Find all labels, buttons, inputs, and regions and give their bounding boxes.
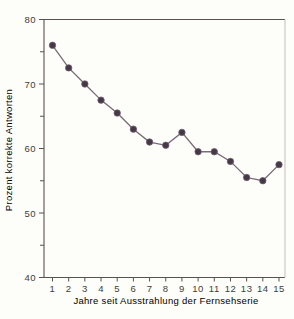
x-tick-label: 5 — [114, 283, 120, 294]
x-tick-label: 7 — [147, 283, 153, 294]
data-point — [82, 81, 88, 87]
x-tick-label: 10 — [192, 283, 204, 294]
x-tick-label: 9 — [179, 283, 185, 294]
line-chart: 4050607080123456789101112131415 Prozent … — [0, 0, 294, 319]
data-point — [243, 174, 249, 180]
data-point — [163, 142, 169, 148]
data-point — [98, 97, 104, 103]
x-tick-label: 1 — [50, 283, 56, 294]
data-point — [211, 149, 217, 155]
x-tick-label: 4 — [98, 283, 104, 294]
data-point — [227, 158, 233, 164]
data-point — [195, 149, 201, 155]
x-tick-label: 14 — [257, 283, 269, 294]
data-point — [49, 42, 55, 48]
x-axis-title: Jahre seit Ausstrahlung der Fernsehserie — [73, 295, 258, 306]
x-tick-label: 2 — [66, 283, 72, 294]
x-tick-label: 13 — [241, 283, 253, 294]
x-tick-label: 15 — [273, 283, 285, 294]
y-axis-title: Prozent korrekte Antworten — [3, 89, 14, 211]
data-point — [130, 126, 136, 132]
x-tick-label: 6 — [130, 283, 136, 294]
y-tick-label: 70 — [24, 79, 36, 90]
data-point — [146, 139, 152, 145]
data-point — [65, 65, 71, 71]
x-tick-label: 12 — [225, 283, 237, 294]
y-tick-label: 50 — [24, 208, 36, 219]
x-tick-label: 8 — [163, 283, 169, 294]
series-line — [53, 45, 280, 180]
y-tick-label: 60 — [24, 143, 36, 154]
data-point — [276, 161, 282, 167]
figure: 4050607080123456789101112131415 Prozent … — [0, 0, 294, 319]
x-tick-label: 3 — [82, 283, 88, 294]
data-point — [114, 110, 120, 116]
x-tick-label: 11 — [209, 283, 220, 294]
y-tick-label: 80 — [24, 14, 36, 25]
y-tick-label: 40 — [24, 272, 36, 283]
data-point — [260, 178, 266, 184]
data-point — [179, 129, 185, 135]
plot-area: 4050607080123456789101112131415 — [24, 14, 285, 294]
